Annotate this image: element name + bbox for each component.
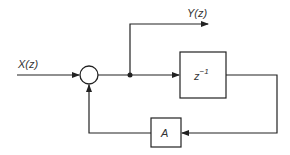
output-label: Y(z)	[187, 7, 208, 19]
summing-junction	[80, 66, 98, 84]
feedback-line-left	[89, 85, 151, 133]
gain-block-label: A	[160, 127, 168, 139]
input-label: X(z)	[17, 58, 39, 70]
block-diagram: X(z) Y(z) z−1 A	[0, 0, 290, 155]
